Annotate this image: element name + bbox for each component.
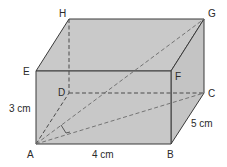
vertex-label-H: H: [59, 8, 66, 19]
dimension-length: 4 cm: [92, 149, 114, 160]
vertex-label-A: A: [27, 149, 34, 160]
dimension-width: 5 cm: [191, 118, 213, 129]
vertex-label-B: B: [167, 149, 174, 160]
vertex-label-E: E: [23, 66, 30, 77]
cuboid-diagram: H G E F D C A B 3 cm 4 cm 5 cm: [0, 0, 227, 167]
front-face: [36, 71, 171, 144]
vertex-label-G: G: [208, 8, 216, 19]
vertex-label-C: C: [208, 88, 215, 99]
dimension-height: 3 cm: [9, 103, 31, 114]
vertex-label-F: F: [175, 71, 181, 82]
vertex-label-D: D: [58, 87, 65, 98]
